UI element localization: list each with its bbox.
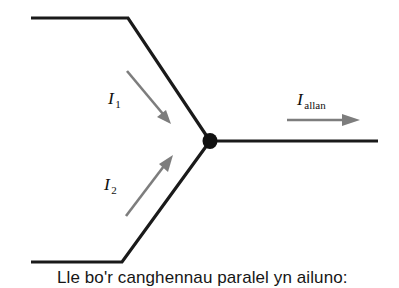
figure-caption: Lle bo'r canghennau paralel yn ailuno: <box>57 268 348 287</box>
label-i-allan-symbol: I <box>296 89 304 109</box>
diagram-canvas: I1 I2 Iallan Lle bo'r canghennau paralel… <box>0 0 399 288</box>
label-i-allan-subscript: allan <box>304 99 326 111</box>
junction-node-dot <box>203 133 218 149</box>
label-i2-symbol: I <box>103 174 111 194</box>
current-junction-figure: I1 I2 Iallan Lle bo'r canghennau paralel… <box>0 0 399 288</box>
figure-background <box>0 0 399 288</box>
label-i1-symbol: I <box>107 88 115 108</box>
label-i2-subscript: 2 <box>111 184 117 196</box>
label-i1-subscript: 1 <box>115 98 121 110</box>
